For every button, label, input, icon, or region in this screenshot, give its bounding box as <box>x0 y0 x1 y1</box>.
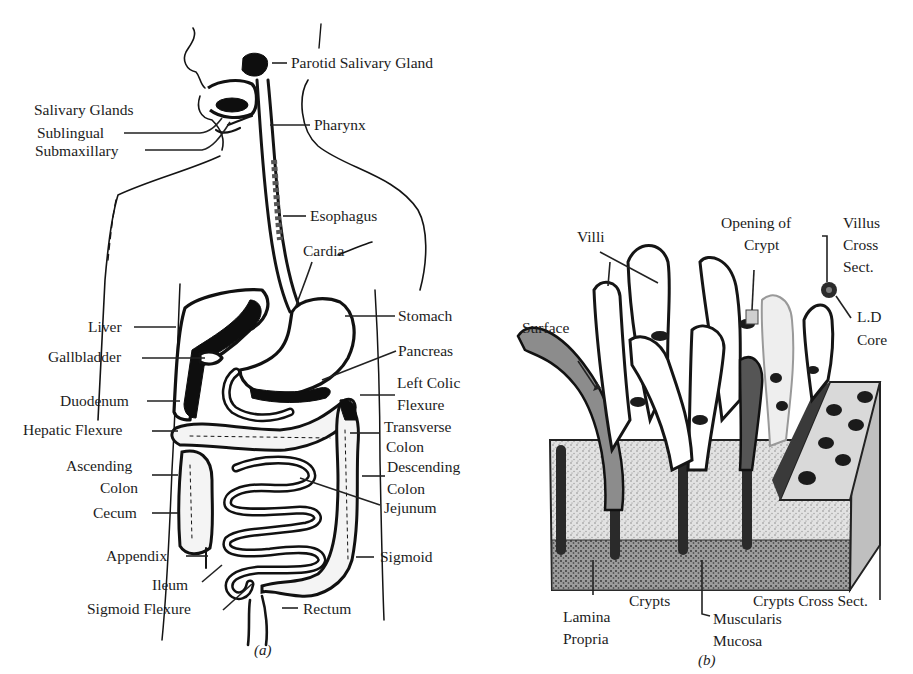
panel-b-intestinal-mucosa: Villi Opening of Crypt Villus Cross Sect… <box>518 214 887 669</box>
caption-b: (b) <box>698 652 716 669</box>
label-salivary-glands: Salivary Glands <box>34 101 133 118</box>
label-rectum: Rectum <box>303 600 351 617</box>
label-submaxillary: Submaxillary <box>35 142 119 159</box>
label-muscularis: Muscularis <box>713 610 782 627</box>
label-lamina: Lamina <box>563 608 610 625</box>
label-parotid-salivary-gland: Parotid Salivary Gland <box>291 54 433 71</box>
label-opening-of: Opening of <box>721 214 792 231</box>
label-ld-core: Core <box>857 331 887 348</box>
label-cardia: Cardia <box>303 242 344 259</box>
label-descending: Descending <box>387 458 460 475</box>
esophagus-tube <box>257 80 300 312</box>
label-lamina-propria: Propria <box>563 630 609 647</box>
label-crypts: Crypts <box>629 592 670 609</box>
label-stomach: Stomach <box>398 307 452 324</box>
label-surface: Surface <box>522 319 569 336</box>
label-villus-sect: Sect. <box>843 258 874 275</box>
label-ld: L.D <box>857 308 882 325</box>
label-descending-colon: Colon <box>387 480 425 497</box>
label-pancreas: Pancreas <box>398 342 453 359</box>
label-ileum: Ileum <box>152 576 188 593</box>
label-liver: Liver <box>88 318 122 335</box>
label-pharynx: Pharynx <box>314 116 366 133</box>
label-opening-crypt: Crypt <box>744 236 780 253</box>
label-transverse-colon: Colon <box>386 438 424 455</box>
label-esophagus: Esophagus <box>310 207 377 224</box>
label-villus: Villus <box>843 214 880 231</box>
label-transverse: Transverse <box>384 418 452 435</box>
label-villi: Villi <box>577 228 605 245</box>
panel-a-labels: Parotid Salivary Gland Salivary Glands S… <box>23 54 460 659</box>
label-left-colic: Left Colic <box>397 374 460 391</box>
label-ascending: Ascending <box>66 457 133 474</box>
label-jejunum: Jejunum <box>384 499 437 516</box>
liver <box>174 290 268 420</box>
label-sigmoid: Sigmoid <box>380 548 433 565</box>
label-gallbladder: Gallbladder <box>48 348 122 365</box>
label-crypts-cross-sect: Crypts Cross Sect. <box>753 592 868 609</box>
anatomy-figure: Parotid Salivary Gland Salivary Glands S… <box>0 0 913 674</box>
label-appendix: Appendix <box>106 547 167 564</box>
label-villus-cross: Cross <box>843 236 878 253</box>
label-ascending-colon: Colon <box>100 479 138 496</box>
label-cecum: Cecum <box>93 504 137 521</box>
label-duodenum: Duodenum <box>60 392 129 409</box>
caption-a: (a) <box>254 642 272 659</box>
label-sigmoid-flexure: Sigmoid Flexure <box>87 600 191 617</box>
label-left-colic-flexure: Flexure <box>397 396 444 413</box>
label-sublingual: Sublingual <box>37 124 104 141</box>
panel-a-digestive-system: Parotid Salivary Gland Salivary Glands S… <box>23 24 460 659</box>
label-hepatic-flexure: Hepatic Flexure <box>23 421 123 438</box>
label-muscularis-mucosa: Mucosa <box>713 632 762 649</box>
